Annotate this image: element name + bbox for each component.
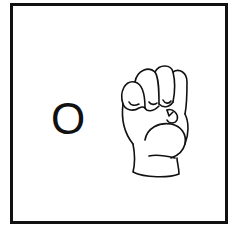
asl-fist-handshape-icon	[115, 64, 195, 179]
letter-label: O	[51, 94, 85, 144]
sign-letter-card: O	[10, 3, 228, 224]
